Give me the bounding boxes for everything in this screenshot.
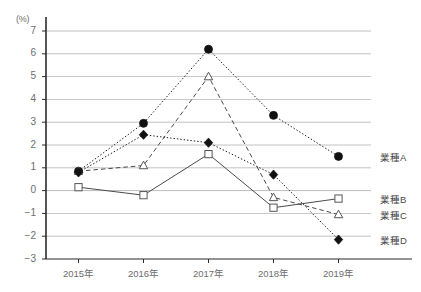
- marker-square: [335, 195, 342, 202]
- marker-square: [270, 204, 277, 211]
- marker-circle: [140, 119, 148, 127]
- marker-circle: [270, 111, 278, 119]
- marker-triangle: [269, 193, 277, 201]
- chart-container: (%) 76543210−1−2−3 2015年2016年2017年2018年2…: [0, 0, 421, 292]
- series-line-業種B: [79, 154, 339, 208]
- marker-circle: [335, 152, 343, 160]
- marker-diamond: [204, 138, 212, 147]
- marker-square: [140, 192, 147, 199]
- marker-circle: [205, 45, 213, 53]
- plot-area: [0, 0, 421, 292]
- marker-square: [75, 184, 82, 191]
- marker-diamond: [139, 130, 147, 139]
- marker-triangle: [204, 72, 212, 80]
- marker-square: [205, 151, 212, 158]
- marker-diamond: [269, 170, 277, 179]
